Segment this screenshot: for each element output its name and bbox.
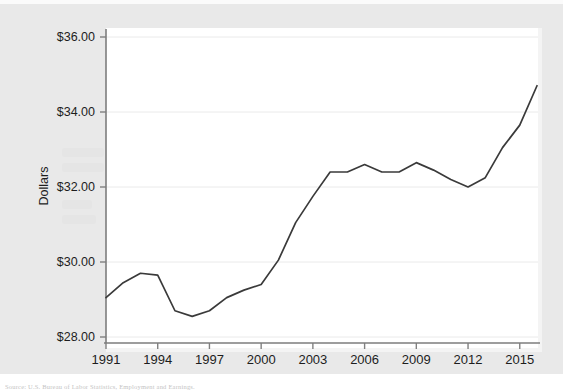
y-tick-label: $30.00 [57,255,95,269]
x-tick-label: 1997 [195,352,224,367]
y-axis-title: Dollars [37,167,51,206]
x-tick-label: 1991 [92,352,121,367]
x-tick-label: 1994 [143,352,172,367]
x-tick-label: 2012 [454,352,483,367]
y-tick-label: $36.00 [57,30,95,44]
y-tick-label: $34.00 [57,105,95,119]
x-tick-labels: 199119941997200020032006200920122015 [92,352,535,367]
x-tick-label: 2003 [298,352,327,367]
y-tick-label: $32.00 [57,180,95,194]
x-axis-ticks [106,343,520,349]
x-tick-label: 2000 [247,352,276,367]
y-tick-labels: $28.00$30.00$32.00$34.00$36.00 [57,30,95,344]
figure-area: $28.00$30.00$32.00$34.00$36.00 199119941… [0,4,563,366]
x-tick-label: 2009 [402,352,431,367]
gridlines [106,37,538,337]
x-tick-label: 2006 [350,352,379,367]
source-note: Source: U.S. Bureau of Labor Statistics,… [5,383,195,390]
x-tick-label: 2015 [505,352,534,367]
chart-screenshot: $28.00$30.00$32.00$34.00$36.00 199119941… [0,0,563,390]
y-axis-ticks [100,37,106,337]
y-tick-label: $28.00 [57,330,95,344]
data-line-series-dollars [106,86,537,317]
line-chart: $28.00$30.00$32.00$34.00$36.00 199119941… [0,4,563,366]
